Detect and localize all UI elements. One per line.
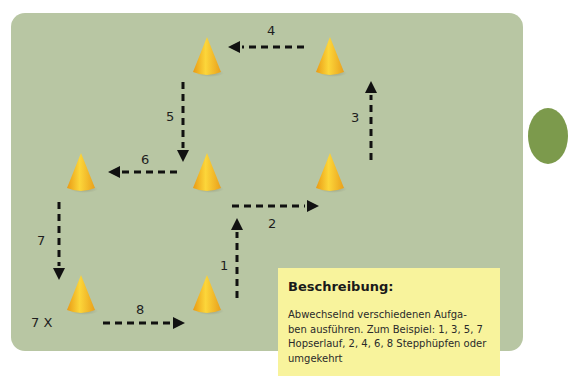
- description-title: Beschreibung:: [288, 279, 490, 294]
- segment-label-6: 6: [141, 152, 149, 167]
- segment-label-1: 1: [220, 258, 228, 273]
- segment-label-2: 2: [268, 216, 276, 231]
- description-line: ben ausführen. Zum Beispiel: 1, 3, 5, 7: [288, 323, 490, 338]
- segment-label-8: 8: [136, 302, 144, 317]
- description-body: Abwechselnd verschiedenen Aufga- ben aus…: [288, 308, 490, 366]
- segment-label-7: 7: [37, 233, 45, 248]
- segment-label-5: 5: [166, 109, 174, 124]
- repeat-count-label: 7 X: [31, 315, 52, 330]
- description-line: Abwechselnd verschiedenen Aufga-: [288, 308, 490, 323]
- segment-label-3: 3: [351, 110, 359, 125]
- description-line: Hopserlauf, 2, 4, 6, 8 Stepphüpfen oder: [288, 337, 490, 352]
- segment-label-4: 4: [267, 23, 275, 38]
- description-box: Beschreibung: Abwechselnd verschiedenen …: [278, 268, 500, 376]
- description-line: umgekehrt: [288, 352, 490, 367]
